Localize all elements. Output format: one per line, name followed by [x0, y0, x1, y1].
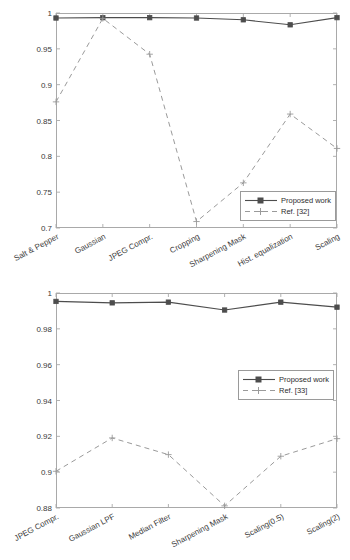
legend-top: Proposed work Ref. [32] [240, 191, 336, 221]
legend-label-reference: Ref. [33] [279, 386, 307, 395]
y-tick-label: 0.8 [22, 152, 52, 161]
y-tick-label: 0.9 [22, 468, 52, 477]
legend-entry-reference: Ref. [32] [244, 206, 331, 217]
chart-top: 0.70.750.80.850.90.951 Salt & PepperGaus… [0, 0, 350, 280]
y-tick-label: 0.98 [22, 324, 52, 333]
y-tick-label: 1 [22, 9, 52, 18]
y-tick-label: 0.88 [22, 504, 52, 513]
y-tick-label: 0.94 [22, 396, 52, 405]
y-tick-label: 0.7 [22, 224, 52, 233]
chart-bottom: 0.880.90.920.940.960.981 JPEG Compr.Gaus… [0, 280, 350, 560]
y-tick-label: 0.9 [22, 80, 52, 89]
legend-swatch-solid-square-icon [242, 374, 276, 385]
legend-entry-proposed: Proposed work [242, 374, 329, 385]
legend-swatch-dashed-plus-icon [244, 206, 278, 217]
y-tick-label: 0.92 [22, 432, 52, 441]
y-tick-label: 0.75 [22, 188, 52, 197]
legend-bottom: Proposed work Ref. [33] [238, 370, 334, 400]
y-tick-label: 0.95 [22, 44, 52, 53]
y-tick-label: 0.85 [22, 116, 52, 125]
legend-swatch-dashed-plus-icon [242, 385, 276, 396]
legend-label-proposed: Proposed work [281, 196, 331, 205]
y-tick-label: 1 [22, 289, 52, 298]
legend-label-proposed: Proposed work [279, 375, 329, 384]
y-tick-label: 0.96 [22, 360, 52, 369]
legend-entry-reference: Ref. [33] [242, 385, 329, 396]
legend-entry-proposed: Proposed work [244, 195, 331, 206]
legend-swatch-solid-square-icon [244, 195, 278, 206]
legend-label-reference: Ref. [32] [281, 207, 309, 216]
